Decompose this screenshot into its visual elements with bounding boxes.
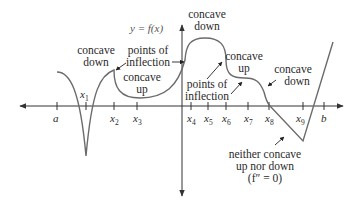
annotation-concave-down-left: concave down	[77, 44, 115, 68]
annotation-concave-up-right: concave up	[225, 50, 263, 75]
svg-text:inflection: inflection	[185, 90, 229, 102]
svg-text:x7: x7	[243, 112, 253, 127]
svg-text:down: down	[284, 75, 310, 87]
svg-text:x2: x2	[109, 112, 119, 127]
annotation-concave-down-top: concave down	[188, 8, 226, 32]
svg-text:a: a	[53, 112, 59, 124]
svg-text:b: b	[321, 112, 327, 124]
svg-text:down: down	[83, 56, 109, 68]
svg-text:x1: x1	[79, 88, 89, 103]
svg-text:inflection: inflection	[126, 56, 170, 68]
svg-text:x3: x3	[132, 112, 142, 127]
concavity-diagram: y = f(x) a x1 x2 x3 x4 x5 x6 x7 x8 x9 b …	[0, 0, 360, 200]
svg-text:x4: x4	[186, 112, 196, 127]
annotation-points-of-inflection-top: points of inflection	[116, 44, 184, 70]
svg-text:neither concave: neither concave	[229, 148, 301, 160]
svg-text:x5: x5	[203, 112, 213, 127]
svg-text:x6: x6	[221, 112, 231, 127]
annotation-points-of-inflection-bottom: points of inflection	[185, 62, 242, 102]
svg-text:up: up	[238, 62, 250, 75]
svg-text:concave: concave	[77, 44, 115, 56]
function-label: y = f(x)	[129, 22, 163, 35]
svg-text:x8: x8	[264, 112, 274, 127]
annotation-concave-down-right: concave down	[268, 63, 312, 87]
svg-text:concave: concave	[225, 50, 263, 62]
svg-text:down: down	[194, 20, 220, 32]
svg-text:concave: concave	[274, 63, 312, 75]
svg-text:(f″ = 0): (f″ = 0)	[248, 172, 282, 185]
svg-text:x9: x9	[295, 112, 305, 127]
svg-text:concave: concave	[188, 8, 226, 20]
annotation-concave-up-left: concave up	[123, 71, 161, 96]
svg-text:up: up	[136, 83, 148, 96]
svg-text:concave: concave	[123, 71, 161, 83]
annotation-neither: neither concave up nor down (f″ = 0)	[229, 137, 301, 185]
